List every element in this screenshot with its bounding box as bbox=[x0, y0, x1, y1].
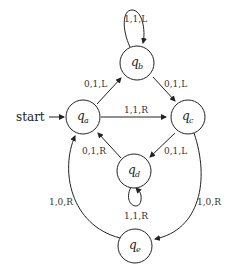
label-qc-qd: 0,1,L bbox=[164, 146, 187, 156]
label-qd-qa: 0,1,R bbox=[82, 146, 106, 156]
svg-text:c: c bbox=[189, 116, 194, 125]
svg-text:a: a bbox=[84, 116, 89, 125]
label-qe-qa: 1,0,R bbox=[49, 197, 73, 207]
label-qc-qe: 1,0,R bbox=[197, 197, 221, 207]
label-qb-qc: 0,1,L bbox=[164, 79, 187, 89]
state-qe: q e bbox=[118, 229, 152, 263]
edge-qd-qd bbox=[128, 187, 141, 206]
state-qa: q a bbox=[66, 100, 100, 134]
svg-text:e: e bbox=[136, 245, 141, 254]
state-diagram: start 1,1,L 0,1,L 0,1,L 1,1,R 0,1,R 0,1,… bbox=[0, 0, 233, 276]
svg-text:b: b bbox=[138, 62, 143, 71]
state-qc: q c bbox=[171, 100, 205, 134]
label-qa-qc: 1,1,R bbox=[124, 105, 148, 115]
label-qb-qb: 1,1,L bbox=[124, 14, 147, 24]
label-qa-qb: 0,1,L bbox=[84, 79, 107, 89]
svg-text:d: d bbox=[135, 170, 140, 179]
state-qd: q d bbox=[117, 154, 151, 188]
start-label: start bbox=[16, 110, 45, 124]
label-qd-qd: 1,1,R bbox=[124, 211, 148, 221]
state-qb: q b bbox=[120, 46, 154, 80]
